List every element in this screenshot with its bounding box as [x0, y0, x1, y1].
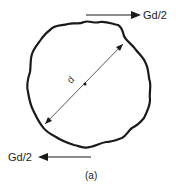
center-point: [84, 83, 87, 86]
bottom-force-arrowhead: [38, 153, 48, 161]
bottom-force-label: Gd/2: [8, 152, 32, 163]
top-force-arrowhead: [131, 11, 141, 19]
figure-caption: (a): [85, 171, 97, 181]
top-force-label: Gd/2: [143, 10, 167, 21]
particle-outline: [27, 21, 150, 147]
